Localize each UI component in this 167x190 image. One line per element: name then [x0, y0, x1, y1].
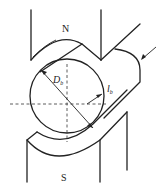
- length-label: lb: [107, 83, 113, 95]
- rotor: [30, 49, 140, 133]
- arrow-icon: [141, 47, 156, 60]
- north-label: N: [62, 23, 69, 34]
- diameter-label: Db: [52, 74, 63, 86]
- diagram: N S Db lb: [0, 0, 167, 190]
- south-label: S: [61, 172, 67, 183]
- north-pole: [31, 10, 140, 72]
- length-dimension: [87, 94, 102, 104]
